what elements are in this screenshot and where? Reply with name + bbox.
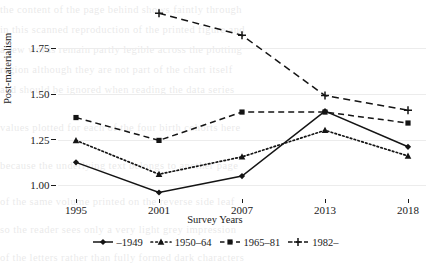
figure-post-materialism-by-cohort: the content of the page behind shows fai… [0,0,430,268]
plot-area: 1.001.251.501.75 [58,6,426,198]
x-axis-tick-mark [325,199,326,203]
y-axis-tick-label: 1.00 [0,180,56,191]
legend-item-4[interactable]: 1982– [287,236,338,248]
square-marker [156,138,161,143]
dashed-plus-key [287,236,309,248]
series-4 [155,9,412,114]
legend-item-2[interactable]: 1950–64 [150,236,212,248]
series-line [76,130,408,174]
dotted-triangle-key [150,236,172,248]
triangle-marker [322,127,329,133]
legend-item-label: 1965–81 [244,237,281,248]
solid-diamond-key [92,236,114,248]
y-axis-tick-mark [51,94,56,95]
series-line [76,111,408,192]
legend-item-3[interactable]: 1965–81 [219,236,281,248]
plus-marker [404,106,412,114]
bleed-line: so the reader sees only a very light gre… [0,224,430,235]
bleed-line: of the letters rather than fully formed … [0,252,430,263]
diamond-marker [405,144,411,150]
series-line [159,13,408,110]
legend-item-label: 1982– [312,237,338,248]
series-line [76,112,408,140]
series-1 [73,108,411,196]
y-axis-tick-label: 1.25 [0,135,56,146]
legend-item-label: –1949 [117,237,143,248]
diamond-marker [156,189,162,195]
square-marker [405,120,410,125]
legend: –19491950–641965–811982– [0,236,430,248]
triangle-marker [73,137,80,143]
square-marker [239,109,244,114]
x-axis-title: Survey Years [0,214,430,225]
legend-item-1[interactable]: –1949 [92,236,143,248]
plus-marker [155,9,163,17]
x-axis-tick-mark [408,199,409,203]
y-axis-tick-mark [51,139,56,140]
dashed-square-key [219,236,241,248]
y-axis-tick-mark [51,185,56,186]
y-axis-tick-value: 1.25 [30,134,49,146]
y-axis-tick-value: 1.00 [30,179,49,191]
square-marker [227,239,232,244]
plus-marker [294,238,302,246]
x-axis-tick-mark [159,199,160,203]
triangle-marker [157,239,164,245]
plus-marker [238,31,246,39]
diamond-marker [99,239,105,245]
diamond-marker [73,159,79,165]
square-marker [73,115,78,120]
y-axis-tick-label: 1.75 [0,43,56,54]
legend-item-label: 1950–64 [175,237,212,248]
series-plot [58,6,426,198]
y-axis-tick-mark [51,48,56,49]
y-axis-tick-value: 1.50 [30,88,49,100]
series-2 [73,127,412,177]
square-marker [322,109,327,114]
x-axis-tick-mark [242,199,243,203]
y-axis-tick-label: 1.50 [0,89,56,100]
x-axis-tick-mark [76,199,77,203]
y-axis-tick-value: 1.75 [30,42,49,54]
